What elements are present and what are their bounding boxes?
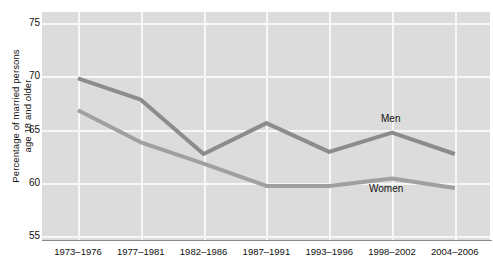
gridline-vertical xyxy=(392,12,394,241)
y-axis-tick-label: 70 xyxy=(18,70,40,81)
gridline-vertical xyxy=(204,12,206,241)
gridline-vertical xyxy=(141,12,143,241)
gridline-vertical xyxy=(455,12,457,241)
y-axis-tick-label: 55 xyxy=(18,230,40,241)
y-axis-tick-label: 60 xyxy=(18,177,40,188)
x-axis-line xyxy=(42,240,492,241)
y-axis-title-container: Percentage of married persons age 18 and… xyxy=(0,0,42,245)
y-axis-tick-label: 65 xyxy=(18,124,40,135)
y-axis-tick-label: 75 xyxy=(18,17,40,28)
x-axis-tick-label: 2004–2006 xyxy=(410,246,493,257)
series-label-men: Men xyxy=(381,113,400,124)
plot-area xyxy=(42,12,490,241)
gridline-vertical xyxy=(266,12,268,241)
chart-figure: Percentage of married persons age 18 and… xyxy=(0,0,493,270)
series-label-women: Women xyxy=(369,183,403,194)
gridline-vertical xyxy=(329,12,331,241)
gridline-vertical xyxy=(78,12,80,241)
